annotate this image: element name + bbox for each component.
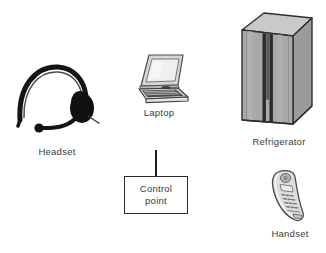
control-point-box[interactable]: Control point (124, 176, 188, 214)
headset-label: Headset (14, 146, 100, 157)
headset-icon (14, 58, 100, 138)
laptop-icon (128, 52, 190, 104)
handset-icon (266, 168, 308, 224)
refrigerator-icon (236, 8, 318, 130)
control-point-label-line1: Control (140, 183, 172, 195)
diagram-canvas: Headset Laptop (0, 0, 326, 253)
handset-label: Handset (262, 228, 318, 239)
laptop-label: Laptop (126, 107, 192, 118)
control-point-label-line2: point (145, 195, 167, 207)
control-point-connector-line (155, 150, 157, 177)
refrigerator-label: Refrigerator (235, 136, 323, 147)
